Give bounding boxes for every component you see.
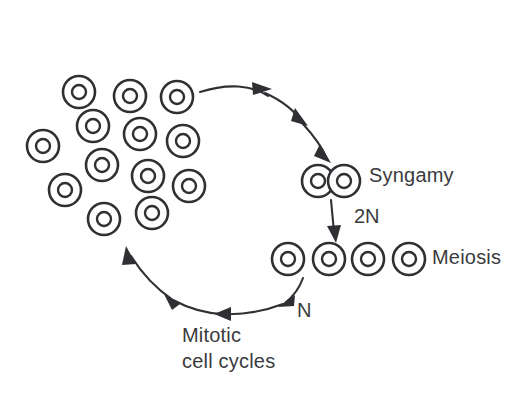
cell-outer-ring	[272, 243, 304, 275]
cell-outer-ring	[352, 243, 384, 275]
cell-outer-ring	[63, 76, 95, 108]
cell-outer-ring	[393, 243, 425, 275]
mitotic-cell-cycles-label-line1: Mitotic	[182, 324, 241, 346]
cell-outer-ring	[49, 174, 81, 206]
meiosis-products	[272, 243, 425, 275]
life-cycle-canvas: Syngamy 2N Meiosis	[0, 0, 524, 414]
cell-outer-ring	[132, 160, 164, 192]
cell-outer-ring	[173, 170, 205, 202]
cell-outer-ring	[136, 197, 168, 229]
cell-outer-ring	[86, 149, 118, 181]
life-cycle-diagram: Syngamy 2N Meiosis	[0, 0, 524, 414]
cell-outer-ring	[124, 118, 156, 150]
cell-outer-ring	[114, 80, 146, 112]
diploid-label: 2N	[354, 205, 380, 227]
haploid-cell-cluster	[27, 76, 205, 235]
cell-outer-ring	[161, 81, 193, 113]
cell-outer-ring	[313, 243, 345, 275]
cell-outer-ring	[167, 125, 199, 157]
arc-cluster-to-syngamy	[200, 82, 331, 163]
meiosis-label: Meiosis	[432, 246, 501, 268]
arrow-syngamy-to-meiosis	[327, 200, 341, 243]
cell-outer-ring	[27, 130, 59, 162]
cell-outer-ring	[328, 165, 360, 197]
cell-outer-ring	[77, 110, 109, 142]
cell-outer-ring	[88, 203, 120, 235]
haploid-label: N	[297, 299, 311, 321]
syngamy-label: Syngamy	[369, 164, 454, 186]
syngamy-zygote	[302, 165, 360, 197]
mitotic-cell-cycles-label-line2: cell cycles	[182, 350, 275, 372]
